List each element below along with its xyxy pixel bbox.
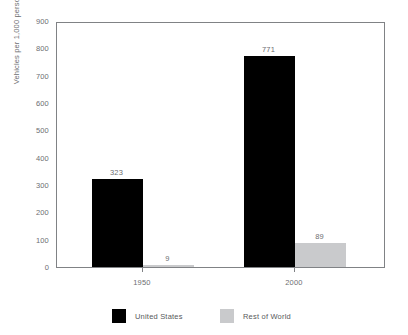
y-tick-label: 700 (19, 72, 49, 81)
y-tick-label: 300 (19, 181, 49, 190)
y-tick-label: 900 (19, 17, 49, 26)
bar-value-label: 771 (246, 45, 292, 54)
x-tick-mark (142, 268, 143, 272)
bar-1950-united-states (92, 179, 143, 267)
y-tick-label: 0 (19, 263, 49, 272)
legend-swatch-icon (112, 309, 126, 323)
y-tick-label: 400 (19, 154, 49, 163)
bar-value-label: 9 (145, 254, 191, 263)
bar-1950-rest-of-world (143, 265, 194, 267)
y-tick-label: 600 (19, 99, 49, 108)
x-tick-mark (294, 268, 295, 272)
chart-legend: United StatesRest of World (0, 306, 408, 326)
legend-label: Rest of World (243, 312, 291, 321)
bar-value-label: 323 (94, 168, 140, 177)
y-tick-label: 500 (19, 126, 49, 135)
legend-swatch-icon (220, 309, 234, 323)
legend-item-rest-of-world[interactable]: Rest of World (220, 308, 291, 324)
y-tick-label: 200 (19, 208, 49, 217)
x-tick-label: 2000 (274, 278, 314, 287)
x-tick-label: 1950 (122, 278, 162, 287)
legend-label: United States (135, 312, 183, 321)
legend-item-united-states[interactable]: United States (112, 308, 183, 324)
y-tick-label: 100 (19, 236, 49, 245)
bar-value-label: 89 (297, 232, 343, 241)
bar-chart-figure: Vehicles per 1,000 persons 0100200300400… (0, 0, 408, 335)
bar-2000-united-states (244, 56, 295, 267)
bar-2000-rest-of-world (295, 243, 346, 267)
y-tick-label: 800 (19, 44, 49, 53)
